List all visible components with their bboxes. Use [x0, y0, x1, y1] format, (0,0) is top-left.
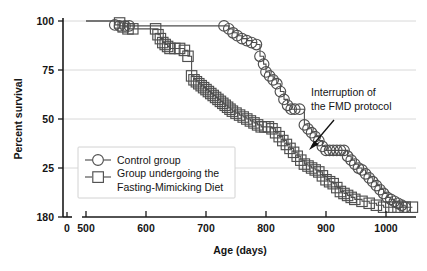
x-tick-label-800: 800 [257, 222, 275, 234]
y-tick-label-75: 75 [42, 64, 54, 76]
y-tick-label-25: 25 [42, 162, 54, 174]
y-tick-label-100: 100 [36, 15, 54, 27]
legend-fmd-label-line-2: Fasting-Mimicking Diet [117, 181, 223, 193]
survival-chart-figure: 100 75 50 25 180 0 500 600 700 800 900 1… [0, 0, 427, 271]
x-tick-label-700: 700 [197, 222, 215, 234]
y-tick-label-50: 50 [42, 113, 54, 125]
legend: Control group Group undergoing the Fasti… [78, 147, 235, 198]
x-tick-label-600: 600 [137, 222, 155, 234]
legend-control-label: Control group [117, 154, 181, 166]
x-tick-label-0: 0 [64, 222, 70, 234]
annotation-line-2: the FMD protocol [311, 100, 392, 112]
x-tick-label-1000: 1000 [374, 222, 398, 234]
annotation-line-1: Interruption of [311, 86, 376, 98]
y-axis-title: Percent survival [12, 78, 24, 159]
y-tick-label-0: 180 [36, 211, 54, 223]
legend-fmd-label-line-1: Group undergoing the [117, 167, 219, 179]
x-tick-label-500: 500 [77, 222, 95, 234]
x-axis-title: Age (days) [213, 244, 267, 256]
x-tick-label-900: 900 [317, 222, 335, 234]
